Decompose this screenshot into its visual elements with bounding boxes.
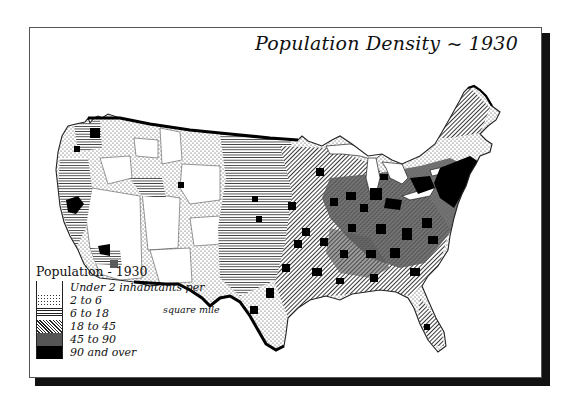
legend-label: Under 2 inhabitants per — [70, 281, 204, 294]
legend-swatch-dense — [36, 333, 63, 346]
legend-item: 6 to 18 — [36, 307, 256, 320]
legend-label: 18 to 45 — [70, 320, 116, 333]
legend-item: 45 to 90 — [36, 333, 256, 346]
legend-item: Under 2 inhabitants per — [36, 281, 256, 294]
legend-swatch-solid — [36, 346, 63, 359]
legend-item: 90 and over — [36, 346, 256, 359]
legend-title: Population - 1930 — [36, 264, 256, 279]
legend-unit-continuation: square mile — [163, 304, 220, 315]
legend-label: 6 to 18 — [70, 307, 109, 320]
legend-item: 18 to 45 — [36, 320, 256, 333]
legend-swatch-horizontal — [36, 307, 63, 320]
legend-label: 90 and over — [70, 346, 136, 359]
legend-item: 2 to 6 — [36, 294, 256, 307]
legend-swatch-diagonal — [36, 320, 63, 333]
map-title: Population Density ~ 1930 — [255, 32, 518, 54]
legend-label: 45 to 90 — [70, 333, 116, 346]
legend: Population - 1930 Under 2 inhabitants pe… — [36, 264, 256, 359]
legend-swatch-stipple — [36, 294, 63, 307]
map-frame: Population Density ~ 1930 Population - 1… — [29, 27, 542, 378]
legend-label: 2 to 6 — [70, 294, 102, 307]
legend-swatch-blank — [36, 281, 63, 294]
